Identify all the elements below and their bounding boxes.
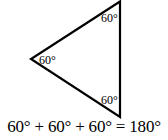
angle-label-top: 60° xyxy=(101,11,118,25)
angle-label-left: 60° xyxy=(39,53,56,67)
angle-label-bottom: 60° xyxy=(101,93,118,107)
angle-sum-equation: 60° + 60° + 60° = 180° xyxy=(0,117,168,137)
